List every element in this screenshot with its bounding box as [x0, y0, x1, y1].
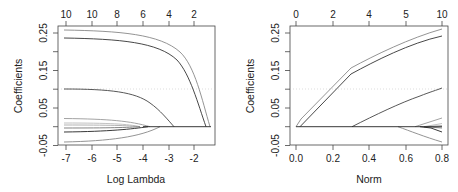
figure: 0.25 0.15 0.05 -0.05 Coefficients -7 -6 …: [0, 0, 458, 192]
left-x-tick-label: -3: [165, 153, 174, 164]
left-y-axis-title: Coefficients: [12, 59, 24, 114]
left-x-tick-label: -5: [113, 153, 122, 164]
left-y-tick-label: -0.05: [38, 134, 49, 157]
left-y-axis: [53, 33, 58, 146]
left-plot: 0.25 0.15 0.05 -0.05 Coefficients -7 -6 …: [12, 9, 215, 185]
right-plot: 0.25 0.15 0.05 -0.05 Coefficients 0.0 0.…: [244, 9, 449, 185]
right-x-tick-label: 0.4: [362, 153, 376, 164]
right-coefficient-paths: [296, 29, 442, 142]
left-top-tick-label: 10: [60, 9, 72, 20]
left-y-tick-label: 0.05: [38, 98, 49, 118]
right-y-axis-title: Coefficients: [244, 59, 256, 114]
right-top-tick-label: 2: [330, 9, 336, 20]
left-y-tick-label: 0.15: [38, 60, 49, 80]
left-path-coef2: [64, 38, 206, 127]
right-x-tick-label: 0.0: [289, 153, 303, 164]
right-top-tick-label: 0: [293, 9, 299, 20]
left-top-tick-label: 2: [191, 9, 197, 20]
left-x-axis: [66, 145, 194, 150]
right-path-coef2: [300, 36, 442, 127]
right-x-axis: [296, 145, 442, 150]
left-y-tick-label: 0.25: [38, 23, 49, 43]
left-top-axis: [66, 21, 194, 26]
left-coefficient-paths: [64, 30, 211, 142]
left-path-coef9: [64, 127, 160, 142]
left-top-tick-label: 8: [114, 9, 120, 20]
left-x-tick-label: -6: [88, 153, 97, 164]
right-x-axis-title: Norm: [356, 173, 382, 185]
right-path-coef3: [352, 88, 442, 127]
right-x-tick-label: 0.6: [399, 153, 413, 164]
right-path-coef1: [296, 29, 442, 127]
left-x-tick-label: -4: [139, 153, 148, 164]
left-path-coef7: [64, 127, 140, 128]
right-y-tick-label: -0.05: [270, 134, 281, 157]
left-top-tick-label: 4: [166, 9, 172, 20]
right-top-tick-label: 10: [436, 9, 448, 20]
left-top-tick-label: 6: [140, 9, 146, 20]
right-path-coef9: [398, 127, 442, 142]
right-top-tick-label: 4: [366, 9, 372, 20]
left-x-tick-label: -2: [190, 153, 199, 164]
right-y-tick-label: 0.05: [270, 98, 281, 118]
left-x-tick-label: -7: [62, 153, 71, 164]
right-y-tick-label: 0.15: [270, 60, 281, 80]
left-top-tick-label: 10: [86, 9, 98, 20]
right-top-tick-label: 5: [403, 9, 409, 20]
right-x-tick-label: 0.2: [326, 153, 340, 164]
right-y-tick-label: 0.25: [270, 23, 281, 43]
right-top-axis: [296, 21, 442, 26]
left-x-axis-title: Log Lambda: [107, 173, 166, 185]
right-x-tick-label: 0.8: [435, 153, 449, 164]
right-y-axis: [285, 33, 290, 146]
